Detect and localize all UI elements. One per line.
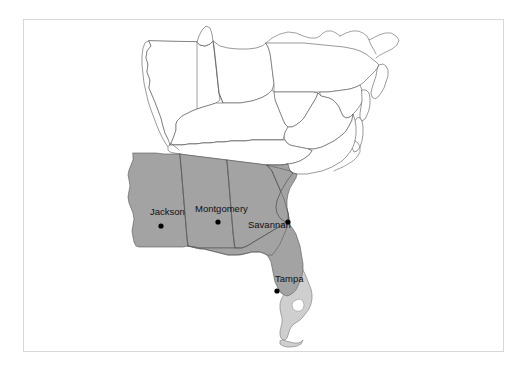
- state-ohio: [213, 41, 274, 103]
- state-mississippi-shaded: [128, 153, 188, 247]
- city-label-montgomery: Montgomery: [195, 203, 248, 214]
- map-figure: Jackson Montgomery Savannah Tampa: [0, 0, 526, 370]
- newyork-inner-mark: [369, 40, 376, 54]
- city-dot-tampa: [274, 288, 279, 293]
- city-dot-savannah: [285, 219, 290, 224]
- great-lakes-edge: [266, 31, 340, 43]
- city-label-savannah: Savannah: [248, 219, 291, 230]
- state-pennsylvania: [266, 43, 379, 92]
- city-dot-montgomery: [215, 219, 220, 224]
- city-label-jackson: Jackson: [150, 206, 185, 217]
- city-dot-jackson: [158, 223, 163, 228]
- state-michigan-fragment: [197, 26, 213, 46]
- state-alabama-shaded: [180, 154, 235, 248]
- florida-keys: [280, 340, 303, 347]
- us-southeast-map: Jackson Montgomery Savannah Tampa: [0, 0, 526, 370]
- city-label-tampa: Tampa: [275, 273, 304, 284]
